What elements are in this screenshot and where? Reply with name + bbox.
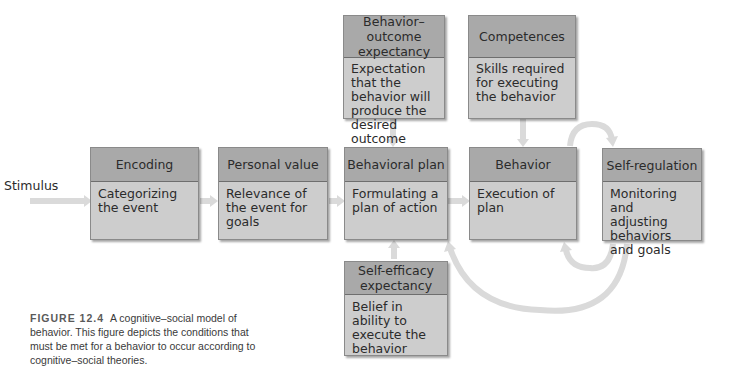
personal-value-title: Personal value: [219, 148, 327, 182]
self-efficacy-expectancy-title: Self-efficacy expectancy: [345, 262, 447, 295]
self-efficacy-expectancy-description: Belief in ability to execute the behavio…: [345, 295, 447, 355]
personal-value-description: Relevance of the event for goals: [219, 182, 327, 239]
behavior-box: Behavior Execution of plan: [469, 147, 577, 240]
behavior-outcome-expectancy-description: Expectation that the behavior will produ…: [344, 58, 444, 118]
competences-box: Competences Skills required for executin…: [468, 15, 576, 119]
behavioral-plan-description: Formulating a plan of action: [345, 182, 447, 239]
self-regulation-description: Monitoring and adjusting behaviors and g…: [603, 182, 701, 240]
competences-title: Competences: [469, 16, 575, 58]
self-efficacy-expectancy-box: Self-efficacy expectancy Belief in abili…: [344, 261, 448, 356]
behavioral-plan-title: Behavioral plan: [345, 148, 447, 182]
figure-caption: FIGURE 12.4A cognitive–social model of b…: [30, 311, 260, 367]
encoding-title: Encoding: [91, 148, 198, 182]
personal-value-box: Personal value Relevance of the event fo…: [218, 147, 328, 240]
behavioral-plan-box: Behavioral plan Formulating a plan of ac…: [344, 147, 448, 240]
figure-number: FIGURE 12.4: [30, 312, 104, 324]
behavior-description: Execution of plan: [470, 182, 576, 239]
competences-description: Skills required for executing the behavi…: [469, 58, 575, 118]
behavior-outcome-expectancy-box: Behavior–outcome expectancy Expectation …: [343, 15, 445, 119]
self-regulation-box: Self-regulation Monitoring and adjusting…: [602, 148, 702, 241]
stimulus-label: Stimulus: [4, 178, 58, 193]
encoding-box: Encoding Categorizing the event: [90, 147, 199, 240]
self-regulation-title: Self-regulation: [603, 149, 701, 182]
behavior-title: Behavior: [470, 148, 576, 182]
encoding-description: Categorizing the event: [91, 182, 198, 239]
behavior-outcome-expectancy-title: Behavior–outcome expectancy: [344, 16, 444, 58]
